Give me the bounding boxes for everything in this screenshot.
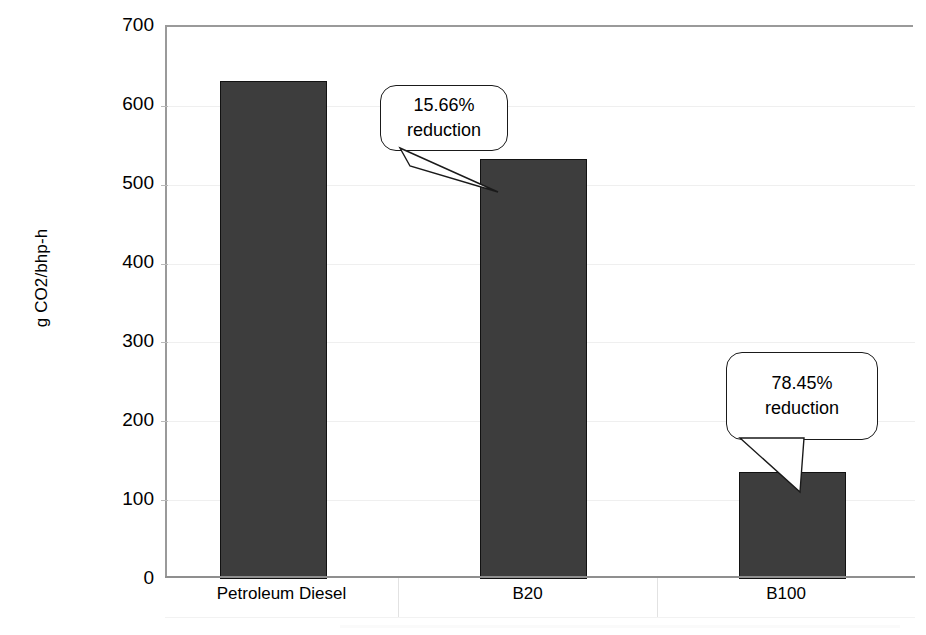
callout-b20-line1: 15.66%: [413, 93, 474, 118]
tick-mark-300: [161, 342, 168, 343]
y-axis-title: g CO2/bhp-h: [32, 198, 52, 358]
callout-b100-line1: 78.45%: [771, 371, 832, 396]
y-tick-label-500: 500: [90, 173, 154, 192]
y-tick-label-200: 200: [90, 410, 154, 429]
tick-mark-200: [161, 421, 168, 422]
y-tick-label-400: 400: [90, 252, 154, 271]
y-axis-tick-labels: 700 600 500 400 300 200 100 0: [82, 0, 154, 635]
callout-b20-tail: [380, 130, 530, 250]
x-tick-label-b20: B20: [398, 584, 657, 604]
y-tick-label-100: 100: [90, 489, 154, 508]
callout-b100-line2: reduction: [765, 396, 839, 421]
callout-b100-tail: [720, 420, 860, 540]
bar-petroleum-diesel[interactable]: [220, 81, 327, 579]
co2-emissions-bar-chart: g CO2/bhp-h 700 600 500 400 300 200 100 …: [0, 0, 926, 635]
tick-mark-600: [161, 106, 168, 107]
tick-mark-400: [161, 264, 168, 265]
x-tick-label-petroleum-diesel: Petroleum Diesel: [165, 584, 398, 604]
x-axis-category-band: Petroleum Diesel B20 B100: [165, 578, 915, 618]
tick-mark-500: [161, 185, 168, 186]
y-tick-label-300: 300: [90, 331, 154, 350]
y-tick-label-0: 0: [90, 568, 154, 587]
scan-artifact: [340, 625, 900, 628]
x-tick-label-b100: B100: [657, 584, 915, 604]
tick-mark-100: [161, 500, 168, 501]
category-band-underline: [165, 617, 915, 618]
y-tick-label-600: 600: [90, 94, 154, 113]
y-tick-label-700: 700: [90, 15, 154, 34]
